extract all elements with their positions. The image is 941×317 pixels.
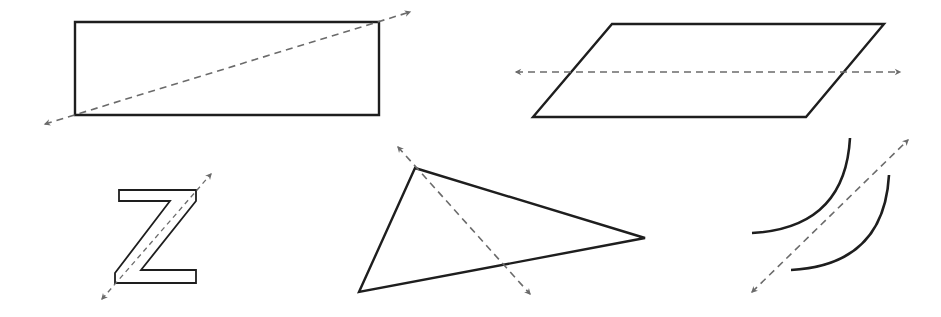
upper-arc xyxy=(752,138,850,233)
figure-arcs xyxy=(752,138,908,292)
parallelogram-outline xyxy=(533,24,884,117)
letter-z-outline xyxy=(115,190,196,283)
rectangle-diagonal-dashed-line xyxy=(45,12,410,124)
triangle-outline xyxy=(359,168,645,292)
figure-letter-z xyxy=(102,174,211,299)
figure-triangle xyxy=(359,147,645,294)
figure-rectangle xyxy=(45,12,410,124)
arcs-diagonal-dashed-line xyxy=(752,140,908,292)
figure-parallelogram xyxy=(516,24,900,117)
lower-arc xyxy=(791,175,889,270)
diagram-canvas xyxy=(0,0,941,317)
